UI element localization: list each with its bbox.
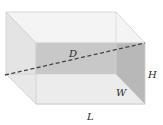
box-diagram: D W H L xyxy=(0,0,163,125)
label-l: L xyxy=(86,111,94,122)
label-d: D xyxy=(68,48,77,59)
label-w: W xyxy=(116,87,127,98)
box-diagram-svg: D W H L xyxy=(0,0,163,125)
label-h: H xyxy=(147,69,157,80)
front-face xyxy=(36,43,145,104)
